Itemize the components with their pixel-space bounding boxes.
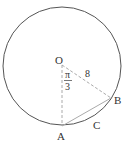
point-label-B: B <box>114 94 121 106</box>
point-label-O: O <box>55 54 63 66</box>
angle-numerator: π <box>65 69 70 80</box>
circle-diagram: O π 3 8 B C A <box>0 0 127 143</box>
point-label-C: C <box>93 119 100 131</box>
angle-denominator: 3 <box>65 81 70 92</box>
point-label-A: A <box>57 130 65 142</box>
radius-label: 8 <box>85 68 90 79</box>
chord-AB <box>62 98 111 126</box>
